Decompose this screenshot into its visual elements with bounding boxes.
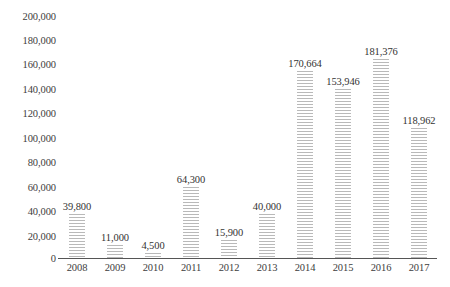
bar-group[interactable]: 39,800 2008 bbox=[58, 0, 96, 287]
bar[interactable] bbox=[259, 214, 275, 258]
bar-group[interactable]: 181,376 2016 bbox=[362, 0, 400, 287]
bar-group[interactable]: 4,500 2010 bbox=[134, 0, 172, 287]
bar[interactable] bbox=[145, 253, 161, 258]
bar[interactable] bbox=[297, 71, 313, 258]
plot-area: 39,800 2008 11,000 2009 4,500 2010 64,30… bbox=[58, 0, 450, 287]
bar[interactable] bbox=[373, 59, 389, 258]
bar[interactable] bbox=[335, 89, 351, 258]
bar[interactable] bbox=[221, 240, 237, 258]
y-axis-tick-label: 200,000 bbox=[0, 11, 56, 22]
y-axis-tick-label: 160,000 bbox=[0, 59, 56, 70]
bars-layer: 39,800 2008 11,000 2009 4,500 2010 64,30… bbox=[58, 0, 450, 287]
y-axis-tick-label: 80,000 bbox=[0, 157, 56, 168]
bar-chart: 200,000 180,000 160,000 140,000 120,000 … bbox=[0, 0, 450, 287]
bar-value-label: 118,962 bbox=[386, 115, 450, 126]
bar-group[interactable]: 40,000 2013 bbox=[248, 0, 286, 287]
bar-group[interactable]: 15,900 2012 bbox=[210, 0, 248, 287]
y-axis-tick-label: 20,000 bbox=[0, 231, 56, 242]
y-axis-tick-label: 180,000 bbox=[0, 35, 56, 46]
y-axis-tick-label: 120,000 bbox=[0, 108, 56, 119]
y-axis-tick-label: 0 bbox=[0, 253, 56, 264]
y-axis-tick-label: 140,000 bbox=[0, 84, 56, 95]
bar-group[interactable]: 64,300 2011 bbox=[172, 0, 210, 287]
y-axis: 200,000 180,000 160,000 140,000 120,000 … bbox=[0, 0, 56, 287]
bar-group[interactable]: 118,962 2017 bbox=[400, 0, 438, 287]
bar[interactable] bbox=[411, 128, 427, 258]
bar[interactable] bbox=[183, 187, 199, 258]
y-axis-tick-label: 60,000 bbox=[0, 182, 56, 193]
bar-group[interactable]: 153,946 2015 bbox=[324, 0, 362, 287]
x-axis-tick-label: 2017 bbox=[394, 262, 444, 274]
y-axis-tick-label: 100,000 bbox=[0, 133, 56, 144]
bar-group[interactable]: 170,664 2014 bbox=[286, 0, 324, 287]
